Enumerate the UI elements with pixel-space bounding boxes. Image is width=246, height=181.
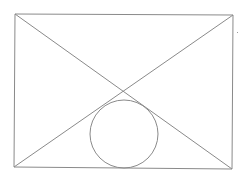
geometry-diagram: [0, 0, 246, 181]
stray-mark: [237, 32, 238, 33]
inscribed-circle: [90, 100, 158, 168]
diagonal-top-right-to-bottom-left: [14, 15, 233, 167]
